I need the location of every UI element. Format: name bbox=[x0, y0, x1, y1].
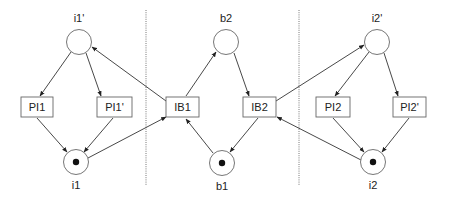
arc-i1p-PI1p bbox=[86, 53, 101, 96]
arc-IB1-b2 bbox=[186, 52, 216, 96]
arc-b1-IB1 bbox=[186, 119, 213, 153]
transition-label: PI1' bbox=[105, 101, 124, 113]
arc-IB1-i1p bbox=[92, 47, 166, 101]
token-icon bbox=[219, 160, 225, 166]
place-i1-prime: i1' bbox=[67, 12, 92, 55]
token-icon bbox=[73, 159, 79, 165]
transition-label: IB2 bbox=[251, 101, 268, 113]
arc-i2-IB2 bbox=[277, 117, 361, 160]
transition-label: IB1 bbox=[174, 101, 191, 113]
transition-PI1: PI1 bbox=[21, 97, 53, 117]
arc-PI2p-i2 bbox=[382, 118, 409, 152]
arc-PI1-i1 bbox=[37, 118, 67, 152]
place-i2: i2 bbox=[361, 150, 386, 192]
token-icon bbox=[370, 159, 376, 165]
transition-PI2: PI2 bbox=[316, 97, 350, 117]
place-label: b2 bbox=[220, 12, 232, 24]
transition-label: PI1 bbox=[29, 101, 46, 113]
arc-i2p-PI2p bbox=[384, 53, 398, 96]
place-i2-prime: i2' bbox=[365, 12, 390, 55]
arc-i2p-PI2 bbox=[335, 52, 369, 96]
place-label: i2 bbox=[369, 179, 378, 191]
transition-PI2-prime: PI2' bbox=[393, 97, 426, 117]
place-i1: i1 bbox=[64, 150, 89, 192]
place-label: i1' bbox=[74, 12, 85, 24]
transition-IB2: IB2 bbox=[243, 97, 276, 117]
place-label: i1 bbox=[72, 179, 81, 191]
place-label: b1 bbox=[216, 180, 228, 192]
transition-label: PI2' bbox=[400, 101, 419, 113]
petri-net-diagram: i1' i1 b2 b1 i2' i2 PI1 PI1' IB1 IB2 bbox=[0, 0, 449, 200]
arc-IB2-i2p bbox=[276, 45, 364, 101]
arcs bbox=[37, 45, 409, 160]
arc-i1-IB1 bbox=[88, 117, 166, 158]
transition-label: PI2 bbox=[325, 101, 342, 113]
arc-i1p-PI1 bbox=[40, 52, 71, 96]
arc-b2-IB2 bbox=[234, 53, 249, 96]
transition-IB1: IB1 bbox=[166, 97, 199, 117]
transition-PI1-prime: PI1' bbox=[97, 97, 132, 117]
place-b1: b1 bbox=[210, 151, 235, 193]
place-b2: b2 bbox=[214, 12, 239, 55]
arc-PI2-i2 bbox=[333, 118, 364, 152]
arc-IB2-b1 bbox=[230, 118, 258, 152]
place-label: i2' bbox=[372, 12, 383, 24]
